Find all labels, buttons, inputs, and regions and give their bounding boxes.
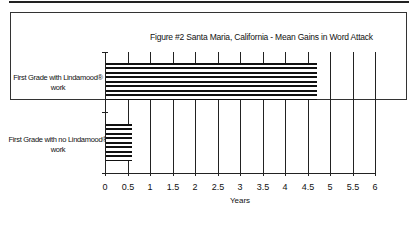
gridline bbox=[353, 52, 354, 176]
bar-1 bbox=[105, 63, 317, 100]
gridline bbox=[330, 52, 331, 176]
top-rule bbox=[9, 1, 409, 3]
chart-title: Figure #2 Santa Maria, California - Mean… bbox=[150, 32, 370, 42]
category-label-2: First Grade with no Lindamood® work bbox=[8, 135, 108, 155]
category-label-2-line1: First Grade with no Lindamood® bbox=[8, 135, 108, 145]
category-label-1: First Grade with Lindamood® work bbox=[8, 73, 108, 93]
category-label-1-line1: First Grade with Lindamood® bbox=[8, 73, 108, 83]
x-axis bbox=[105, 173, 376, 174]
y-tick bbox=[102, 112, 108, 113]
gridline bbox=[375, 52, 376, 176]
category-label-2-line2: work bbox=[8, 145, 108, 155]
category-label-1-line2: work bbox=[8, 83, 108, 93]
x-tick-label: 6 bbox=[360, 182, 390, 192]
bar-2 bbox=[105, 124, 132, 161]
y-tick bbox=[102, 52, 108, 53]
x-axis-label: Years bbox=[215, 196, 265, 205]
y-axis bbox=[105, 52, 106, 176]
